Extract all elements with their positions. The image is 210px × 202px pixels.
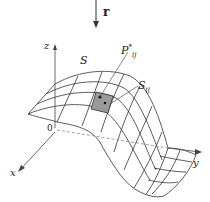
x-axis-label: x bbox=[10, 168, 16, 178]
vector-r-arrow bbox=[93, 0, 99, 28]
patch-sij bbox=[91, 92, 113, 113]
y-axis-label: y bbox=[193, 158, 199, 168]
point-pij-label: P*ij bbox=[121, 44, 136, 59]
surface-s-label: S bbox=[80, 55, 88, 66]
diagram-svg bbox=[0, 0, 210, 202]
surface-diagram: r z S P*ij Sij 0 x y bbox=[0, 0, 210, 202]
vector-r-label: r bbox=[103, 6, 109, 18]
x-axis bbox=[18, 132, 55, 172]
origin-label: 0 bbox=[47, 124, 53, 133]
z-axis-label: z bbox=[44, 41, 49, 51]
patch-sij-label: Sij bbox=[138, 80, 150, 94]
